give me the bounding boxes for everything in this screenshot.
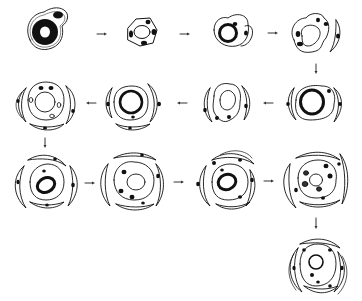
arrow-7-to-8-icon xyxy=(86,102,96,105)
arrow-4-to-5-icon xyxy=(315,64,318,74)
stage-13-cell xyxy=(289,239,347,294)
stage-5-cell xyxy=(286,86,342,122)
stage-3-cell xyxy=(214,15,253,47)
arrow-12-to-13-icon xyxy=(315,218,318,229)
arrow-9-to-10-icon xyxy=(85,182,95,185)
arrow-8-to-9-icon xyxy=(44,138,47,148)
stage-10-cell xyxy=(101,153,164,210)
arrow-6-to-7-icon xyxy=(177,102,187,105)
arrow-1-to-2-icon xyxy=(97,33,107,36)
cell-development-diagram xyxy=(0,0,362,301)
stage-8-cell xyxy=(16,82,75,130)
stage-7-cell xyxy=(106,84,161,130)
stage-12-cell xyxy=(284,152,348,208)
arrow-5-to-6-icon xyxy=(263,102,273,105)
stage-4-cell xyxy=(292,14,340,53)
stage-9-cell xyxy=(15,155,77,208)
arrow-2-to-3-icon xyxy=(180,33,190,36)
arrow-3-to-4-icon xyxy=(268,32,278,35)
arrow-10-to-11-icon xyxy=(174,181,184,184)
arrow-11-to-12-icon xyxy=(264,180,274,183)
stage-6-cell xyxy=(203,84,250,123)
stage-2-cell xyxy=(128,18,157,46)
stage-11-cell xyxy=(196,151,255,209)
stage-1-cell xyxy=(28,8,68,50)
